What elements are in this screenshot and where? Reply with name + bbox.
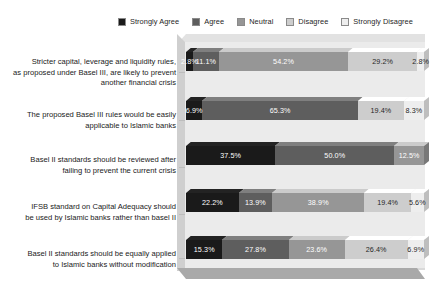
stacked-bar[interactable]: 2.8%11.1%54.2%29.2%2.8%: [186, 48, 424, 71]
bar-segment-value: 54.2%: [273, 57, 294, 66]
legend-swatch-icon: [192, 18, 200, 26]
category-label-line: IFSB standard on Capital Adequacy should: [8, 202, 176, 213]
legend-swatch-icon: [118, 18, 126, 26]
bar-segment-value: 11.1%: [196, 57, 216, 66]
bar-segment[interactable]: 37.5%: [186, 146, 275, 165]
category-label-line: to Islamic banks without modification: [8, 260, 176, 271]
legend-label: Neutral: [249, 17, 273, 26]
bar-segment-value: 26.4%: [366, 245, 387, 254]
chart-legend: Strongly AgreeAgreeNeutralDisagreeStrong…: [118, 17, 413, 26]
legend-item[interactable]: Strongly Agree: [118, 17, 179, 26]
axis-tick: [179, 120, 185, 121]
bar-segment-value: 13.9%: [245, 198, 266, 207]
category-label-line: as proposed under Basel III, are likely …: [8, 68, 176, 79]
bar-segment[interactable]: 11.1%: [193, 52, 219, 71]
bar-segment-value: 6.9%: [407, 245, 424, 254]
category-label-line: another financial crisis: [8, 78, 176, 89]
legend-swatch-icon: [237, 18, 245, 26]
category-label-line: Basel II standards should be equally app…: [8, 249, 176, 260]
bar-segment[interactable]: 5.6%: [411, 193, 424, 212]
axis-tick: [179, 72, 185, 73]
bar-segment[interactable]: 13.9%: [239, 193, 272, 212]
bar-segment[interactable]: 50.0%: [275, 146, 394, 165]
bar-segment-value: 29.2%: [372, 57, 393, 66]
stacked-bar[interactable]: 37.5%50.0%12.5%: [186, 142, 424, 165]
bar-segment-value: 22.2%: [202, 198, 223, 207]
bar-segment[interactable]: 12.5%: [394, 146, 424, 165]
bar-segment[interactable]: 29.2%: [348, 52, 417, 71]
bar-segment[interactable]: 19.4%: [358, 101, 404, 120]
stacked-bar-body: 37.5%50.0%12.5%: [186, 146, 424, 165]
bar-segment-value: 50.0%: [324, 151, 345, 160]
category-label-line: be used by Islamic banks rather than bas…: [8, 213, 176, 224]
legend-label: Agree: [204, 17, 224, 26]
stacked-bar-body: 6.9%65.3%19.4%8.3%: [186, 101, 424, 120]
chart-row: The proposed Basel III rules would be ea…: [0, 97, 431, 143]
legend-label: Disagree: [298, 17, 328, 26]
bar-segment-value: 2.8%: [412, 57, 429, 66]
legend-label: Strongly Agree: [130, 17, 179, 26]
bar-segment-value: 5.6%: [409, 198, 426, 207]
bar-segment-value: 38.9%: [308, 198, 329, 207]
bar-segment[interactable]: 19.4%: [364, 193, 410, 212]
category-label: Basel II standards should be reviewed af…: [8, 155, 176, 176]
chart-row: Basel II standards should be equally app…: [0, 236, 431, 282]
legend-item[interactable]: Neutral: [237, 17, 273, 26]
bar-segment[interactable]: 6.9%: [408, 240, 424, 259]
stacked-bar-body: 15.3%27.8%23.6%26.4%6.9%: [186, 240, 424, 259]
bar-segment[interactable]: 22.2%: [186, 193, 239, 212]
category-label: The proposed Basel III rules would be ea…: [8, 110, 176, 131]
stacked-bar[interactable]: 6.9%65.3%19.4%8.3%: [186, 97, 424, 120]
bar-segment[interactable]: 6.9%: [186, 101, 202, 120]
bar-segment-value: 19.4%: [370, 106, 391, 115]
stacked-bar-body: 2.8%11.1%54.2%29.2%2.8%: [186, 52, 424, 71]
category-label-line: The proposed Basel III rules would be ea…: [8, 110, 176, 121]
stacked-bar-body: 22.2%13.9%38.9%19.4%5.6%: [186, 193, 424, 212]
axis-tick: [179, 214, 185, 215]
legend-item[interactable]: Disagree: [286, 17, 328, 26]
chart-row: IFSB standard on Capital Adequacy should…: [0, 189, 431, 235]
category-label: IFSB standard on Capital Adequacy should…: [8, 202, 176, 223]
bar-segment-value: 12.5%: [399, 151, 420, 160]
bar-segment[interactable]: 15.3%: [186, 240, 222, 259]
bar-segment-value: 65.3%: [270, 106, 291, 115]
bar-segment[interactable]: 54.2%: [219, 52, 348, 71]
axis-tick: [179, 167, 185, 168]
chart-row: Basel II standards should be reviewed af…: [0, 142, 431, 188]
bar-segment-value: 15.3%: [194, 245, 215, 254]
legend-swatch-icon: [341, 18, 349, 26]
category-label-line: Basel II standards should be reviewed af…: [8, 155, 176, 166]
stacked-bar[interactable]: 15.3%27.8%23.6%26.4%6.9%: [186, 236, 424, 259]
legend-swatch-icon: [286, 18, 294, 26]
stacked-bar-chart: Strongly AgreeAgreeNeutralDisagreeStrong…: [0, 0, 431, 290]
chart-row: Stricter capital, leverage and liquidity…: [0, 48, 431, 94]
legend-item[interactable]: Agree: [192, 17, 224, 26]
bar-segment[interactable]: 8.3%: [404, 101, 424, 120]
category-label-line: Stricter capital, leverage and liquidity…: [8, 57, 176, 68]
bar-segment[interactable]: 27.8%: [222, 240, 288, 259]
bar-segment[interactable]: 23.6%: [289, 240, 345, 259]
bar-right-cap: [424, 236, 429, 259]
axis-tick: [179, 258, 185, 259]
bar-segment[interactable]: 38.9%: [272, 193, 365, 212]
bar-segment-value: 37.5%: [220, 151, 241, 160]
bar-segment[interactable]: 65.3%: [202, 101, 357, 120]
bar-segment-value: 8.3%: [405, 106, 422, 115]
bar-segment[interactable]: 2.8%: [417, 52, 424, 71]
bar-right-cap: [424, 97, 429, 120]
bar-segment[interactable]: 2.8%: [186, 52, 193, 71]
legend-label: Strongly Disagree: [353, 17, 413, 26]
bar-segment-value: 6.9%: [186, 106, 203, 115]
bar-segment-value: 19.4%: [377, 198, 398, 207]
category-label-line: failing to prevent the current crisis: [8, 166, 176, 177]
category-label: Stricter capital, leverage and liquidity…: [8, 57, 176, 89]
legend-item[interactable]: Strongly Disagree: [341, 17, 413, 26]
bar-segment-value: 23.6%: [306, 245, 327, 254]
bar-right-cap: [424, 142, 429, 165]
category-label: Basel II standards should be equally app…: [8, 249, 176, 270]
category-label-line: applicable to Islamic banks: [8, 121, 176, 132]
bar-segment[interactable]: 26.4%: [345, 240, 408, 259]
bar-segment-value: 27.8%: [245, 245, 266, 254]
stacked-bar[interactable]: 22.2%13.9%38.9%19.4%5.6%: [186, 189, 424, 212]
